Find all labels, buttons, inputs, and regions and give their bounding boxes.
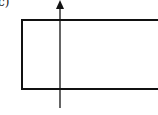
vertical-arrow	[0, 0, 158, 115]
arrowhead-icon	[56, 0, 64, 9]
